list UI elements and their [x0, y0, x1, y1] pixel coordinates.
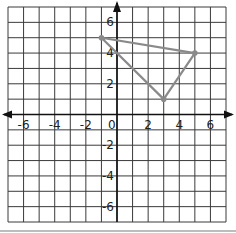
y-tick-label: -6 — [102, 200, 114, 214]
x-tick-label: 2 — [144, 118, 152, 132]
x-axis-arrow-right-icon — [224, 111, 234, 119]
triangle-vertex-point — [99, 35, 105, 41]
y-tick-label: 6 — [106, 15, 114, 29]
x-tick-label: 4 — [175, 118, 183, 132]
axes — [2, 1, 234, 222]
triangle-vertex-point — [192, 50, 198, 56]
y-tick-label: -2 — [102, 138, 114, 152]
x-tick-label: -2 — [80, 118, 92, 132]
coordinate-plane: -6-4-20246642-2-4-6 — [0, 0, 236, 233]
y-tick-label: -4 — [102, 169, 114, 183]
x-tick-label: -4 — [49, 118, 61, 132]
x-axis-arrow-left-icon — [2, 111, 12, 119]
y-tick-label: 2 — [106, 77, 114, 91]
x-tick-label: 6 — [207, 118, 215, 132]
triangle-vertex-point — [161, 96, 167, 102]
bottom-divider — [0, 230, 236, 232]
x-tick-label: 0 — [108, 118, 116, 132]
x-tick-label: -6 — [18, 118, 30, 132]
